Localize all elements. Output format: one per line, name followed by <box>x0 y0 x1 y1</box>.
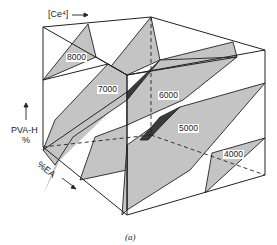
figure-caption: (a) <box>125 233 136 242</box>
cube-diagram <box>0 0 277 245</box>
pva-axis-unit: % <box>22 136 30 145</box>
pva-axis-label: PVA-H <box>11 126 38 135</box>
isosurface-4000 <box>205 138 265 193</box>
isosurface-label-4000: 4000 <box>223 150 244 159</box>
isosurface-label-6000: 6000 <box>158 91 179 100</box>
isosurface-label-8000: 8000 <box>66 53 87 62</box>
isosurface-label-5000: 5000 <box>178 124 199 133</box>
isosurface-label-7000: 7000 <box>97 85 118 94</box>
isosurface-7000-face <box>108 17 160 75</box>
ce-axis-label: [Ce⁴] <box>48 10 68 19</box>
